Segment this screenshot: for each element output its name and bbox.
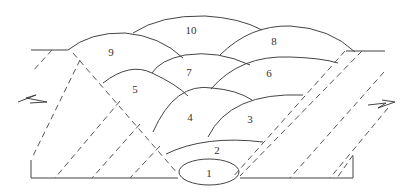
hatch-line [330,108,388,178]
bead-9-label: 9 [108,47,114,58]
bead-4-outline [153,87,252,132]
bead-1-label: 1 [206,168,212,179]
hatch-line [130,146,160,178]
bead-5-label: 5 [132,84,138,95]
bead-6-label: 6 [266,68,272,79]
bead-8-label: 8 [271,36,277,47]
bead-6-outline [211,57,338,89]
hatch-line [92,124,140,178]
bead-7-label: 7 [186,67,192,78]
bead-2-label: 2 [214,145,220,156]
bead-10-label: 10 [186,25,197,36]
hatch-line [32,60,80,158]
left-break-symbol-icon [18,95,47,103]
right-break-symbol-icon [368,100,395,108]
bead-3-label: 3 [247,114,253,125]
bead-7-outline [152,54,250,73]
hatch-line [337,155,353,178]
hatch-line [32,50,52,72]
hatch-line [55,101,120,178]
right-groove-face [240,51,362,176]
bead-5-outline [103,69,188,96]
bead-4-label: 4 [187,112,193,123]
bead-10-outline [133,16,262,33]
bead-9-outline [68,33,183,58]
bead-8-outline [220,26,355,55]
bead-3-outline [208,95,303,137]
hatch-line [290,72,384,178]
